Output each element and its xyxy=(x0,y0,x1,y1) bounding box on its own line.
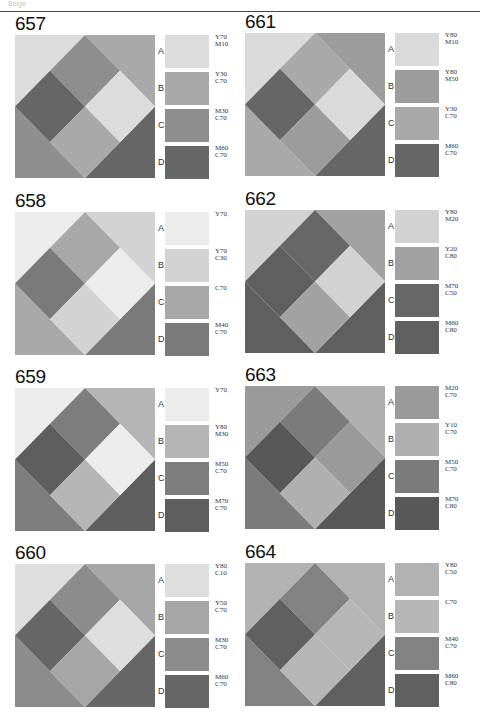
color-swatch-d xyxy=(165,675,209,708)
diamond-pattern xyxy=(15,388,155,531)
cmyk-code: Y10 C70 xyxy=(445,422,457,436)
swatch-letter: C xyxy=(388,118,395,128)
color-panel: 662AY80 M20BY20 C80CM70 C50DM60 C80 xyxy=(245,188,480,363)
color-swatch-b xyxy=(395,247,439,280)
color-swatch-c xyxy=(165,109,209,142)
panel-number: 662 xyxy=(245,188,276,210)
color-panel: 664AY80 C50BC70CM40 C70DM60 C80 xyxy=(245,541,480,716)
color-swatch-d xyxy=(395,144,439,177)
swatch-letter: A xyxy=(158,575,164,585)
cmyk-code: M70 C70 xyxy=(215,498,228,512)
diamond-pattern xyxy=(245,210,385,353)
diamond-pattern xyxy=(245,386,385,529)
cmyk-code: M60 C80 xyxy=(445,320,458,334)
color-panel: 661AY80 M10BY80 M50CY30 C70DM60 C70 xyxy=(245,11,480,186)
swatch-letter: C xyxy=(158,473,165,483)
color-swatch-d xyxy=(395,497,439,530)
panel-number: 661 xyxy=(245,11,276,33)
cmyk-code: M60 C70 xyxy=(215,145,228,159)
cmyk-code: M70 C50 xyxy=(445,283,458,297)
swatch-letter: A xyxy=(388,221,394,231)
swatch-letter: B xyxy=(388,258,394,268)
panel-number: 657 xyxy=(15,13,46,35)
swatch-letter: C xyxy=(158,120,165,130)
swatch-letter: A xyxy=(158,46,164,56)
cmyk-code: Y80 C50 xyxy=(445,562,457,576)
color-swatch-b xyxy=(165,425,209,458)
diamond-pattern xyxy=(245,33,385,176)
color-swatch-b xyxy=(395,600,439,633)
swatch-letter: B xyxy=(158,260,164,270)
color-swatch-b xyxy=(165,601,209,634)
color-swatch-c xyxy=(395,107,439,140)
cmyk-code: M50 C70 xyxy=(445,459,458,473)
color-swatch-c xyxy=(165,286,209,319)
panel-number: 664 xyxy=(245,541,276,563)
color-swatch-d xyxy=(395,321,439,354)
cmyk-code: Y80 C10 xyxy=(215,563,227,577)
color-swatch-d xyxy=(395,674,439,707)
cmyk-code: M60 C80 xyxy=(445,673,458,687)
color-swatch-d xyxy=(165,323,209,356)
cmyk-code: Y80 M10 xyxy=(445,32,458,46)
swatch-letter: B xyxy=(388,81,394,91)
swatch-letter: D xyxy=(158,157,165,167)
diamond-pattern xyxy=(15,564,155,707)
swatch-letter: D xyxy=(158,334,165,344)
color-swatch-d xyxy=(165,146,209,179)
swatch-letter: D xyxy=(158,686,165,696)
cmyk-code: Y70 xyxy=(215,387,227,394)
page-header-label: Beige xyxy=(8,0,26,7)
cmyk-code: M40 C70 xyxy=(445,636,458,650)
panel-number: 660 xyxy=(15,542,46,564)
panel-number: 659 xyxy=(15,366,46,388)
color-panel: 657AY70 M10BY30 C70CM30 C70DM60 C70 xyxy=(15,13,250,188)
swatch-letter: A xyxy=(158,399,164,409)
color-swatch-c xyxy=(165,638,209,671)
swatch-letter: B xyxy=(158,83,164,93)
color-swatch-a xyxy=(395,386,439,419)
cmyk-code: Y80 M50 xyxy=(445,69,458,83)
cmyk-code: M60 C70 xyxy=(215,674,228,688)
swatch-letter: D xyxy=(388,332,395,342)
cmyk-code: Y70 M10 xyxy=(215,34,228,48)
color-swatch-b xyxy=(395,423,439,456)
swatch-letter: C xyxy=(388,295,395,305)
panel-number: 663 xyxy=(245,364,276,386)
swatch-letter: D xyxy=(388,508,395,518)
swatch-letter: A xyxy=(388,397,394,407)
color-swatch-b xyxy=(165,72,209,105)
cmyk-code: M50 C70 xyxy=(215,461,228,475)
color-swatch-a xyxy=(165,35,209,68)
cmyk-code: Y70 C30 xyxy=(215,248,227,262)
cmyk-code: M30 C70 xyxy=(215,637,228,651)
swatch-letter: B xyxy=(158,612,164,622)
swatch-letter: D xyxy=(388,685,395,695)
diamond-pattern xyxy=(15,35,155,178)
cmyk-code: C70 xyxy=(445,599,457,606)
cmyk-code: M40 C70 xyxy=(215,322,228,336)
color-swatch-b xyxy=(395,70,439,103)
color-swatch-d xyxy=(165,499,209,532)
color-panel: 660AY80 C10BY50 C70CM30 C70DM60 C70 xyxy=(15,542,250,717)
cmyk-code: Y30 C70 xyxy=(215,71,227,85)
color-swatch-a xyxy=(165,564,209,597)
cmyk-code: Y30 C70 xyxy=(445,106,457,120)
cmyk-code: C70 xyxy=(215,285,227,292)
color-swatch-a xyxy=(395,210,439,243)
cmyk-code: Y20 C80 xyxy=(445,246,457,260)
swatch-letter: A xyxy=(388,574,394,584)
panel-number: 658 xyxy=(15,190,46,212)
swatch-letter: C xyxy=(158,297,165,307)
color-swatch-c xyxy=(395,637,439,670)
swatch-letter: D xyxy=(158,510,165,520)
color-swatch-c xyxy=(395,284,439,317)
diamond-pattern xyxy=(245,563,385,706)
cmyk-code: M70 C80 xyxy=(445,496,458,510)
swatch-letter: C xyxy=(158,649,165,659)
cmyk-code: Y70 xyxy=(215,211,227,218)
swatch-letter: D xyxy=(388,155,395,165)
color-swatch-c xyxy=(165,462,209,495)
swatch-letter: A xyxy=(388,44,394,54)
swatch-letter: B xyxy=(388,434,394,444)
